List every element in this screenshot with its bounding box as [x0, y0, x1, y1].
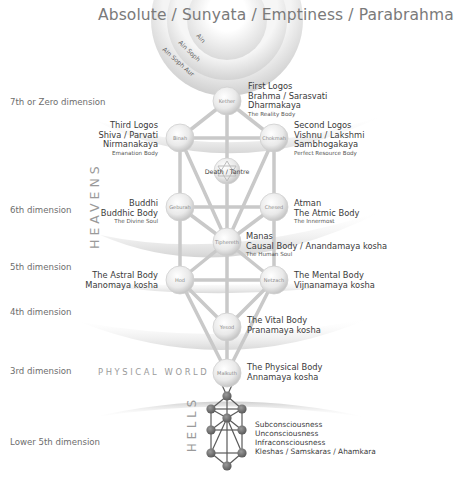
hell-node-h5: [206, 425, 215, 434]
node-label-chokmah: Chokmah: [262, 135, 286, 141]
tiphereth-line-2: Causal Body / Anandamaya kosha: [246, 242, 387, 252]
physical-world-label: PHYSICAL WORLD: [98, 367, 209, 377]
hell-node-h8: [237, 448, 246, 457]
hell-node-h2: [206, 404, 215, 413]
node-label-malkuth: Malkuth: [217, 370, 237, 376]
hell-node-h6: [237, 425, 246, 434]
chesed-line-2: The Atmic Body: [294, 209, 359, 219]
node-label-chesed: Chesed: [265, 204, 284, 210]
binah-subtitle: Emanation Body: [98, 150, 158, 157]
hells-description: Subconsciousness Unconsciousness Infraco…: [255, 420, 376, 456]
dimension-label-6th: 6th dimension: [10, 205, 72, 215]
chokmah-description: Second Logos Vishnu / Lakshmi Sambhogaka…: [294, 121, 364, 157]
hells-label: HELLS: [185, 396, 199, 452]
hells-line-1: Subconsciousness: [255, 420, 376, 429]
node-label-geburah: Geburah: [169, 204, 191, 210]
chokmah-line-3: Sambhogakaya: [294, 140, 364, 150]
chesed-subtitle: The Innermost: [294, 218, 359, 225]
dimension-label-7th: 7th or Zero dimension: [10, 97, 106, 107]
hell-node-h4: [222, 413, 231, 422]
netzach-description: The Mental Body Vijnanamaya kosha: [294, 271, 375, 290]
yesod-line-2: Pranamaya kosha: [247, 326, 321, 336]
hells-line-4: Kleshas / Samskaras / Ahamkara: [255, 447, 376, 456]
node-label-tiphereth: Tiphereth: [215, 239, 239, 245]
netzach-line-2: Vijnanamaya kosha: [294, 281, 375, 291]
page-title: Absolute / Sunyata / Emptiness / Parabra…: [98, 6, 454, 24]
heavens-label: HEAVENS: [87, 162, 102, 249]
node-label-yesod: Yesod: [220, 324, 234, 330]
kether-description: First Logos Brahma / Sarasvati Dharmakay…: [248, 82, 327, 118]
kether-line-3: Dharmakaya: [248, 101, 327, 111]
hell-node-h9: [222, 461, 231, 470]
node-label-binah: Binah: [173, 135, 187, 141]
hell-node-h1: [222, 391, 231, 400]
node-label-netzach: Netzach: [264, 277, 284, 283]
yesod-description: The Vital Body Pranamaya kosha: [247, 316, 321, 335]
kether-subtitle: The Reality Body: [248, 111, 327, 118]
hells-line-2: Unconsciousness: [255, 429, 376, 438]
malkuth-description: The Physical Body Annamaya kosha: [247, 363, 322, 382]
geburah-subtitle: The Divine Soul: [101, 218, 158, 225]
malkuth-line-2: Annamaya kosha: [247, 373, 322, 383]
binah-line-3: Nirmanakaya: [98, 140, 158, 150]
dimension-label-5th: 5th dimension: [10, 262, 72, 272]
hell-node-h3: [237, 404, 246, 413]
hod-line-2: Manomaya kosha: [85, 281, 158, 291]
node-label-daath: Death / Tantre: [205, 168, 250, 175]
node-label-hod: Hod: [175, 277, 185, 283]
hod-description: The Astral Body Manomaya kosha: [85, 271, 158, 290]
tiphereth-description: Manas Causal Body / Anandamaya kosha The…: [246, 232, 387, 258]
tiphereth-subtitle: The Human Soul: [246, 251, 387, 258]
hells-line-3: Infraconsciousness: [255, 438, 376, 447]
geburah-line-2: Buddhic Body: [101, 209, 158, 219]
node-label-kether: Kether: [219, 98, 235, 104]
dimension-label-lower-5th: Lower 5th dimension: [10, 437, 100, 447]
chokmah-subtitle: Perfect Resource Body: [294, 150, 364, 157]
hell-node-h7: [206, 448, 215, 457]
chesed-description: Atman The Atmic Body The Innermost: [294, 199, 359, 225]
geburah-description: Buddhi Buddhic Body The Divine Soul: [101, 199, 158, 225]
dimension-label-4th: 4th dimension: [10, 307, 72, 317]
dimension-label-3rd: 3rd dimension: [10, 366, 72, 376]
binah-description: Third Logos Shiva / Parvati Nirmanakaya …: [98, 121, 158, 157]
